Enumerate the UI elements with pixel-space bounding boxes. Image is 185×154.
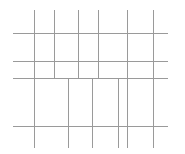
grid-svg [0, 0, 185, 154]
grid-drawing-canvas [0, 0, 185, 154]
